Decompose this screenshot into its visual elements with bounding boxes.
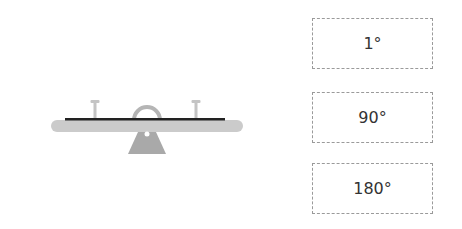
seesaw-pivot-bolt	[145, 132, 150, 137]
seesaw-handle-left	[91, 100, 100, 120]
answer-option-label: 180°	[353, 179, 392, 198]
answer-option-label: 90°	[358, 108, 386, 127]
answer-option-90-degrees[interactable]: 90°	[312, 92, 433, 143]
answer-option-180-degrees[interactable]: 180°	[312, 163, 433, 214]
seesaw-handle-right	[192, 100, 201, 120]
answer-option-1-degree[interactable]: 1°	[312, 18, 433, 69]
answer-option-label: 1°	[363, 34, 381, 53]
seesaw-illustration	[40, 90, 260, 165]
seesaw-seat-line	[65, 118, 225, 121]
seesaw-beam	[51, 120, 243, 132]
